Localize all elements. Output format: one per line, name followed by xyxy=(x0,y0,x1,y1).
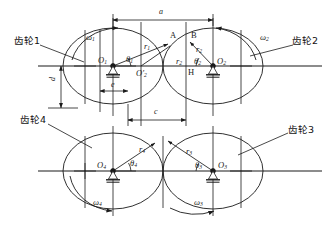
label-O3: O3 xyxy=(218,161,227,171)
label-gear2: 齿轮2 xyxy=(292,36,318,46)
label-gear1: 齿轮1 xyxy=(14,36,40,46)
dimension-a xyxy=(113,14,213,26)
label-O2-prime: O′2 xyxy=(136,69,147,79)
label-theta4: θ4 xyxy=(130,159,137,169)
label-r3: r3 xyxy=(186,147,192,157)
omega1-arc xyxy=(72,28,118,60)
figure-canvas: 齿轮1 齿轮2 齿轮3 齿轮4 O1 O′2 O2 O3 O4 A B H r1… xyxy=(0,0,335,233)
label-omega1: ω1 xyxy=(86,33,95,43)
label-r1: r1 xyxy=(144,42,150,52)
label-gear3: 齿轮3 xyxy=(288,125,314,135)
omega4-arc xyxy=(70,176,112,211)
label-r2-right: r2 xyxy=(196,45,202,55)
label-omega4: ω4 xyxy=(93,198,102,208)
label-O2: O2 xyxy=(217,57,226,67)
label-dim-d: d xyxy=(49,77,57,81)
dimension-d xyxy=(48,66,78,108)
label-omega2: ω2 xyxy=(260,33,269,43)
diagram-svg xyxy=(0,0,335,233)
vertical-centerlines xyxy=(85,18,241,216)
horizontal-centerlines xyxy=(38,66,322,171)
radius-r1 xyxy=(113,44,168,66)
leader-lines xyxy=(40,45,293,155)
label-point-H: H xyxy=(188,68,194,77)
label-point-A: A xyxy=(170,31,176,40)
label-O4: O4 xyxy=(97,161,106,171)
label-O1: O1 xyxy=(98,56,107,66)
leader-gear1 xyxy=(40,45,84,62)
label-omega3: ω3 xyxy=(194,198,203,208)
label-theta1: θ1 xyxy=(126,55,133,65)
label-r2-left: r2 xyxy=(176,57,182,67)
label-r4: r4 xyxy=(139,145,145,155)
label-gear4: 齿轮4 xyxy=(20,115,46,125)
label-theta3: θ3 xyxy=(195,161,202,171)
leader-gear3 xyxy=(238,133,288,155)
label-point-B: B xyxy=(191,31,197,40)
label-dim-c: c xyxy=(154,108,158,116)
label-dim-e: e xyxy=(111,81,115,89)
label-theta2: θ2 xyxy=(194,57,201,67)
label-dim-a: a xyxy=(159,8,163,16)
